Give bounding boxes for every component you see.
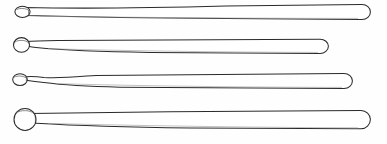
drumstick-third-bead [13, 74, 28, 86]
drumstick-top-bead [15, 6, 30, 17]
drumstick-illustration-canvas [0, 0, 387, 144]
drumstick-bottom-bead [14, 108, 36, 130]
drumstick-second-bead [14, 38, 30, 53]
drumstick-figure: Drumstick tip profile comparison Stick 1… [0, 0, 387, 144]
